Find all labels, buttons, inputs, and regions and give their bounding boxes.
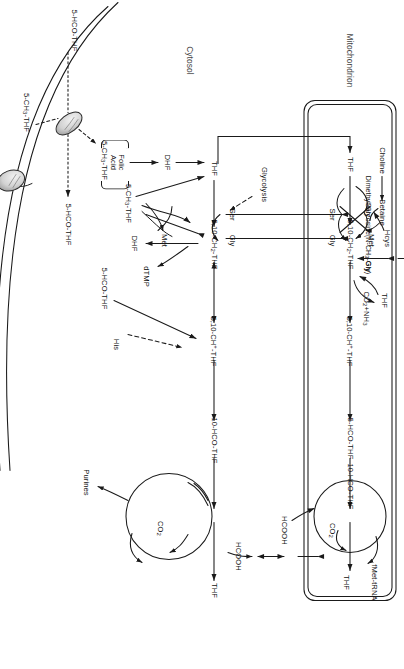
pathway-canvas: Cytosol Mitochondrion 5-HCO-THF 5-CH3-TH…	[0, 0, 404, 669]
membrane-out-5-hco-thf: 5-HCO-THF	[64, 203, 72, 245]
mito-betaine: Betaine	[378, 199, 386, 225]
mito-hcys: Hcys	[383, 229, 391, 246]
mito-hcooh: HCOOH	[280, 516, 288, 545]
mito-co2: CO2	[328, 523, 337, 538]
cytosol-label: Cytosol	[186, 46, 195, 75]
formyl-his-inputs	[114, 300, 196, 347]
mito-5-hco-thf: 5-HCO-THF	[346, 417, 354, 459]
folate-transporter	[52, 107, 86, 139]
cytosol-5-10-ch-plus-thf: 5,10-CH+-THF	[209, 316, 218, 366]
cytosol-10-hco-thf: 10-HCO-THF	[210, 417, 218, 463]
cytosol-co2: CO2	[156, 521, 165, 536]
cytosol-purines: Purines	[82, 469, 90, 495]
cytosol-dtmp: dTMP	[142, 266, 150, 287]
cytosol-met: Met	[160, 234, 168, 247]
cytosol-gly: Gly	[228, 234, 236, 246]
cytosol-hcooh: HCOOH	[234, 542, 242, 571]
folate-receptor	[0, 166, 32, 194]
membrane-in-5-hco-thf: 5-HCO-THF	[70, 9, 78, 51]
cytosol-methyl-cycle	[136, 176, 204, 236]
mito-ser: Ser	[328, 208, 336, 220]
thymidylate-synthesis	[146, 243, 198, 266]
folic-acid-brace-left	[101, 139, 129, 148]
cytosol-dhf: DHF	[163, 154, 171, 170]
cytosol-5-10-ch2-thf: 5,10-CH2-THF	[210, 219, 219, 269]
cytosol-glycolysis: Glycolysis	[260, 166, 268, 201]
cytosol-his: His	[112, 338, 120, 349]
mito-5-10-ch-plus-thf: 5,10-CH+-THF	[345, 316, 354, 366]
membrane-in-5-ch3-thf: 5-CH3-THF	[22, 92, 31, 131]
mito-fmet-trna: fMet-tRNA	[370, 564, 378, 600]
thf-entry-rail	[218, 136, 350, 163]
mito-thf-cycle: THF	[342, 574, 350, 589]
figure-root: Cytosol Mitochondrion 5-HCO-THF 5-CH3-TH…	[0, 0, 404, 669]
mito-thf: THF	[346, 156, 354, 171]
cytosol-thf-cycle: THF	[210, 582, 218, 597]
cytosol-5-ch3-thf: 5-CH3-THF	[124, 183, 133, 222]
met-branch	[146, 203, 163, 230]
pathway-vector-layer	[0, 0, 404, 669]
cytosol-dhf-2: DHF	[130, 235, 138, 251]
cytosol-ser: Ser	[228, 208, 236, 220]
mitochondrion-label: Mitochondrion	[346, 33, 355, 87]
mito-5-10-ch2-thf: 5,10-CH2-THF	[346, 219, 355, 269]
cytosol-5-hco-thf: 5-HCO-THF	[100, 267, 108, 309]
cytosol-thf: THF	[210, 160, 218, 175]
mito-thf-release: THF	[380, 292, 388, 307]
mito-gly-2: Gly	[364, 260, 372, 272]
mito-10-hco-thf: 10-HCO-THF	[346, 463, 354, 509]
ser-gly-transport	[226, 214, 342, 238]
mito-co2-nh3: CO2+NH3	[362, 291, 371, 325]
mito-choline: Choline	[378, 147, 386, 173]
mito-gly: Gly	[328, 234, 336, 246]
cell-membrane	[0, 2, 118, 470]
cytosol-folic-acid: Folic Acid	[109, 154, 125, 171]
